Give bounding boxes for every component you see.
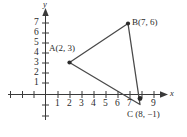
point-b-marker <box>126 21 130 25</box>
x-tick-label-9: 9 <box>151 99 156 109</box>
y-tick-label-1: 1 <box>34 78 39 88</box>
point-a-label: A(2, 3) <box>49 44 75 53</box>
point-c-marker <box>138 96 143 101</box>
point-c-label: C (8, −1) <box>127 110 160 119</box>
y-axis-arrowhead <box>42 8 48 16</box>
x-tick-label-4: 4 <box>91 99 96 109</box>
x-tick-label-1: 1 <box>55 99 60 109</box>
coordinate-plane-figure: y x 7 6 5 4 3 2 1 1 2 3 4 5 6 7 9 A(2, 3… <box>0 0 187 137</box>
point-b-label: B(7, 6) <box>132 18 158 27</box>
x-tick-label-2: 2 <box>67 99 72 109</box>
x-tick-label-3: 3 <box>79 99 84 109</box>
point-a-marker <box>67 60 71 64</box>
y-axis-label: y <box>43 0 47 9</box>
x-tick-label-5: 5 <box>103 99 108 109</box>
triangle-abc <box>70 24 141 105</box>
x-tick-label-7: 7 <box>127 99 132 109</box>
x-tick-label-6: 6 <box>115 99 120 109</box>
x-axis-label: x <box>170 89 174 98</box>
x-axis-arrowhead <box>160 91 168 97</box>
